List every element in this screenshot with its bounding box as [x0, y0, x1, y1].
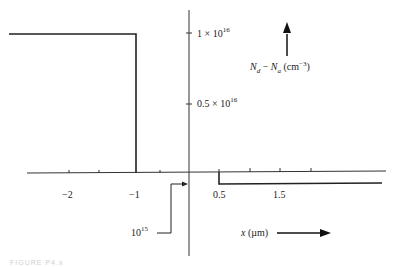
- x-label-1.5: 1.5: [273, 189, 286, 200]
- figure-caption: FIGURE P4.x: [10, 259, 63, 266]
- annotation-arrow-icon: [182, 182, 188, 187]
- x-axis: [27, 171, 386, 173]
- right-arrow-icon: [320, 229, 331, 237]
- x-label-m2: −2: [62, 189, 73, 200]
- doping-profile-line: [9, 34, 136, 173]
- annotation-1e15: 1015: [131, 225, 149, 238]
- up-arrow-icon: [283, 22, 291, 33]
- y-label-1e16: 1 × 1016: [197, 26, 230, 39]
- y-axis-title: Nd − Na (cm−3): [249, 60, 310, 75]
- annotation-leader-line: [157, 184, 183, 233]
- y-label-0.5e16: 0.5 × 1016: [197, 96, 238, 109]
- x-label-m1: −1: [129, 189, 140, 200]
- doping-profile-negative-line: [219, 172, 382, 184]
- x-label-0.5: 0.5: [213, 189, 226, 200]
- doping-profile-chart: 1 × 1016 0.5 × 1016 −2 −1 0.5 1.5 Nd − N…: [0, 0, 393, 267]
- x-axis-title: x (µm): [240, 227, 268, 239]
